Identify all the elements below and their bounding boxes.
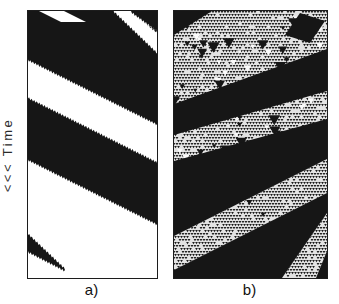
panel-b-caption: b) xyxy=(173,281,326,301)
panel-a-diagram xyxy=(28,11,157,278)
panel-b xyxy=(173,10,328,279)
panel-a-caption: a) xyxy=(27,281,156,301)
panel-b-diagram xyxy=(174,11,327,278)
time-axis-label: <<< Time xyxy=(0,99,18,211)
figure-container: <<< Time a) b) xyxy=(0,0,339,304)
panel-a xyxy=(27,10,158,279)
